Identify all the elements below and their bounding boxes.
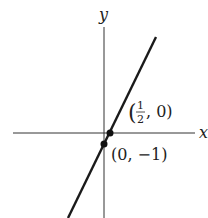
x-axis-label: x — [199, 123, 208, 142]
open-paren: ( — [128, 100, 137, 125]
x-intercept-label: ( 1 2 , 0) — [128, 99, 173, 126]
fraction-numerator: 1 — [137, 99, 144, 112]
x-intercept-point — [107, 130, 114, 137]
graph-canvas: y x ( 1 2 , 0) (0, −1) — [0, 0, 208, 218]
label-rest: , 0) — [146, 102, 173, 121]
fraction-denominator: 2 — [137, 113, 144, 126]
y-axis-label: y — [98, 5, 109, 24]
plotted-line — [68, 37, 156, 218]
y-intercept-label: (0, −1) — [111, 145, 167, 164]
y-intercept-point — [101, 141, 108, 148]
